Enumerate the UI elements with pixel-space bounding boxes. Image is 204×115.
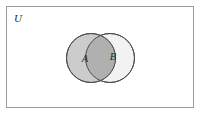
universal-set-label: U <box>14 12 23 24</box>
set-a-label: A <box>81 53 89 64</box>
venn-diagram-canvas: U A B <box>0 0 204 115</box>
set-b-label: B <box>110 51 117 62</box>
venn-diagram-figure: U A B <box>0 0 204 115</box>
